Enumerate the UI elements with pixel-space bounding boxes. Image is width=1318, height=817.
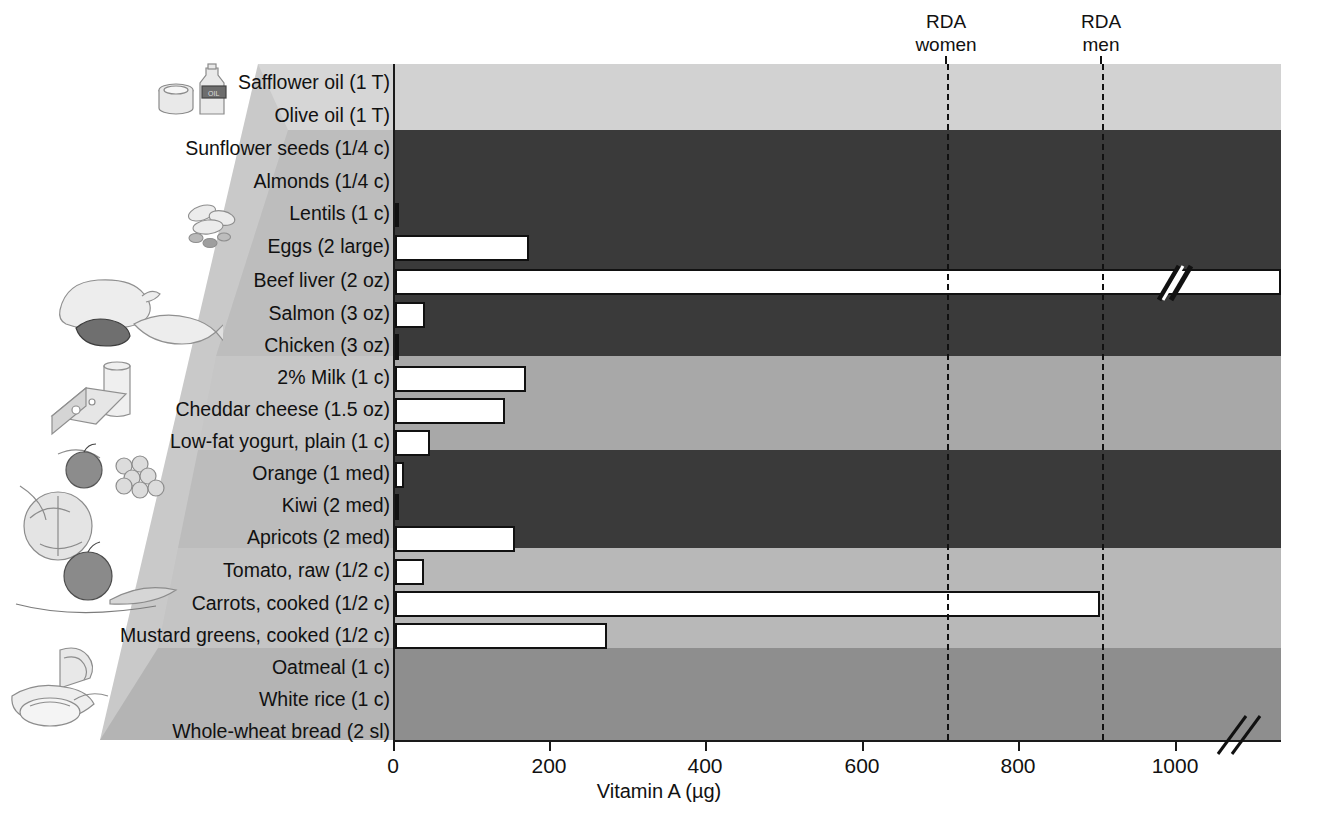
category-label: Olive oil (1 T): [274, 106, 390, 125]
category-label: Carrots, cooked (1/2 c): [192, 594, 390, 613]
x-tick-200: [549, 740, 551, 751]
x-tick-label: 1000: [1152, 754, 1199, 778]
bar-beef-liver: [395, 269, 1281, 295]
category-label: Lentils (1 c): [289, 204, 390, 223]
rda-women-line1: RDA: [915, 10, 976, 33]
bar-lentils: [395, 203, 399, 227]
bar-2-percent-milk: [395, 366, 526, 392]
bar-carrots-cooked: [395, 591, 1100, 617]
x-tick-800: [1018, 740, 1020, 751]
oils-group-band: [395, 64, 1281, 130]
x-tick-label: 400: [687, 754, 722, 778]
x-tick-0: [393, 740, 395, 751]
category-label: Chicken (3 oz): [264, 336, 390, 355]
bar-kiwi: [395, 494, 399, 520]
category-label: Beef liver (2 oz): [253, 271, 390, 290]
rda-men-line: [1102, 64, 1104, 740]
bar-chicken: [395, 334, 399, 360]
x-tick-label: 800: [1000, 754, 1035, 778]
category-label: Cheddar cheese (1.5 oz): [175, 400, 390, 419]
rda-men-line2: men: [1081, 33, 1121, 56]
rda-men-caption: RDA men: [1081, 10, 1121, 56]
rda-women-caption: RDA women: [915, 10, 976, 56]
bar-mustard-greens: [395, 623, 607, 649]
category-label: Whole-wheat bread (2 sl): [172, 722, 390, 741]
category-label: Oatmeal (1 c): [272, 658, 390, 677]
category-label: Safflower oil (1 T): [238, 73, 390, 92]
category-label: Mustard greens, cooked (1/2 c): [120, 626, 390, 645]
x-axis-title: Vitamin A (µg): [0, 780, 1318, 803]
grains-group-band: [395, 648, 1281, 740]
category-label: Orange (1 med): [252, 464, 390, 483]
category-label: Tomato, raw (1/2 c): [223, 561, 390, 580]
x-tick-label: 200: [531, 754, 566, 778]
category-label: White rice (1 c): [259, 690, 390, 709]
x-tick-label: 0: [387, 754, 399, 778]
rda-women-line: [947, 64, 949, 740]
category-label: 2% Milk (1 c): [277, 368, 390, 387]
x-tick-600: [862, 740, 864, 751]
bar-low-fat-yogurt: [395, 430, 430, 456]
dairy-group-band: [395, 356, 1281, 450]
rda-men-line1: RDA: [1081, 10, 1121, 33]
bar-cheddar-cheese: [395, 398, 505, 424]
category-label: Low-fat yogurt, plain (1 c): [170, 432, 390, 451]
category-label: Apricots (2 med): [247, 528, 390, 547]
bar-eggs: [395, 235, 529, 261]
plot-area: [393, 64, 1281, 742]
category-label: Salmon (3 oz): [269, 304, 390, 323]
category-label: Sunflower seeds (1/4 c): [185, 139, 390, 158]
fruit-group-band: [395, 450, 1281, 548]
x-tick-label: 600: [844, 754, 879, 778]
vitamin-a-bar-chart: OIL: [0, 0, 1318, 817]
bar-apricots: [395, 526, 515, 552]
category-label: Eggs (2 large): [268, 237, 390, 256]
x-tick-400: [705, 740, 707, 751]
bar-salmon: [395, 302, 425, 328]
category-label: Almonds (1/4 c): [253, 172, 390, 191]
rda-women-line2: women: [915, 33, 976, 56]
category-label-list: Safflower oil (1 T) Olive oil (1 T) Sunf…: [0, 0, 390, 740]
bar-tomato-raw: [395, 559, 424, 585]
bar-orange: [395, 462, 404, 488]
category-label: Kiwi (2 med): [282, 496, 390, 515]
x-tick-1000: [1175, 740, 1177, 751]
